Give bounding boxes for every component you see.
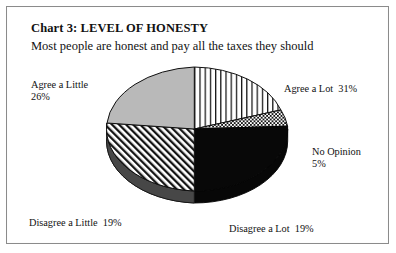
pie-top-face (107, 67, 288, 191)
chart-frame: Chart 3: LEVEL OF HONESTY Most people ar… (6, 6, 389, 244)
slice-disagree-lot (194, 126, 287, 191)
slice-label-no-opinion: No Opinion 5% (312, 146, 361, 171)
slice-label-disagree-lot: Disagree a Lot 19% (229, 223, 314, 235)
slice-label-agree-lot: Agree a Lot 31% (284, 83, 357, 95)
slice-disagree-little (107, 123, 195, 191)
slice-agree-little (107, 67, 194, 129)
slice-label-disagree-little: Disagree a Little 19% (29, 217, 122, 229)
pie-chart (7, 7, 390, 245)
slice-label-agree-little: Agree a Little 26% (31, 79, 88, 104)
